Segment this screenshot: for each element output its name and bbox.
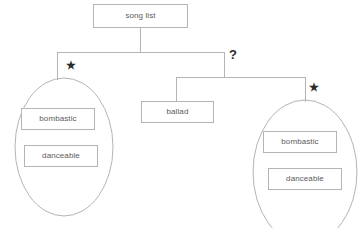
node-song-list[interactable]: song list bbox=[93, 4, 188, 28]
node-ballad[interactable]: ballad bbox=[141, 101, 214, 123]
node-right-danceable-label: danceable bbox=[286, 175, 324, 183]
node-right-danceable[interactable]: danceable bbox=[268, 168, 342, 190]
star-marker-right: ★ bbox=[309, 82, 319, 93]
connector-lines bbox=[57, 28, 305, 102]
node-right-bombastic-label: bombastic bbox=[281, 138, 318, 146]
question-marker: ? bbox=[229, 48, 237, 61]
diagram-canvas: song list ballad bombastic danceable bom… bbox=[0, 0, 360, 228]
node-ballad-label: ballad bbox=[167, 108, 189, 116]
star-marker-left: ★ bbox=[66, 60, 76, 71]
group-ellipse-right-group bbox=[253, 100, 357, 228]
node-right-bombastic[interactable]: bombastic bbox=[263, 131, 337, 153]
node-left-bombastic-label: bombastic bbox=[39, 115, 76, 123]
node-left-danceable[interactable]: danceable bbox=[24, 145, 98, 167]
node-left-danceable-label: danceable bbox=[42, 152, 80, 160]
node-left-bombastic[interactable]: bombastic bbox=[21, 108, 95, 130]
node-song-list-label: song list bbox=[125, 12, 155, 20]
